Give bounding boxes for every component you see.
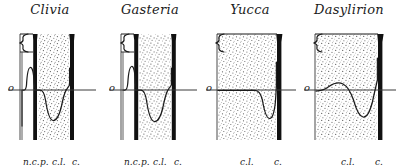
panel-diagram-yucca [200, 28, 300, 140]
panel-dasylirion: Dasylirion o c.l. c. [299, 0, 399, 168]
foot-label-c-yucca: c. [274, 157, 282, 167]
foot-label-p-clivia: p. [40, 157, 49, 167]
stipple-region-clivia [38, 34, 69, 140]
brace-icon-gasteria [121, 34, 130, 52]
brace-icon-clivia [20, 34, 29, 52]
panel-title-gasteria: Gasteria [100, 2, 200, 17]
foot-label-p-gasteria: p. [141, 157, 150, 167]
outer-bar-gasteria [171, 34, 176, 140]
foot-label-cl-yucca: c.l. [240, 157, 254, 167]
outer-bar-clivia [69, 34, 74, 140]
origin-label-dasylirion: o [304, 82, 310, 93]
figure-root: Clivia [0, 0, 399, 168]
panel-title-yucca: Yucca [200, 2, 300, 17]
outer-bar-yucca [276, 34, 282, 140]
foot-label-nc-clivia: n.c. [23, 157, 40, 167]
panel-title-dasylirion: Dasylirion [299, 2, 399, 17]
foot-label-cl-clivia: c.l. [52, 157, 66, 167]
panel-title-clivia: Clivia [0, 2, 100, 17]
foot-label-c-dasylirion: c. [375, 157, 383, 167]
outer-bar-dasylirion [377, 34, 383, 140]
origin-label-gasteria: o [109, 82, 115, 93]
foot-label-c-gasteria: c. [174, 157, 182, 167]
stipple-region-gasteria [139, 34, 171, 140]
panel-diagram-clivia [0, 28, 100, 140]
foot-label-nc-gasteria: n.c. [124, 157, 141, 167]
panel-diagram-dasylirion [299, 28, 399, 140]
panel-yucca: Yucca o c.l. c. [200, 0, 300, 168]
stipple-region-yucca [218, 34, 276, 140]
panel-gasteria: Gasteria o n.c [100, 0, 200, 168]
foot-label-cl-gasteria: c.l. [153, 157, 167, 167]
foot-label-c-clivia: c. [72, 157, 80, 167]
origin-label-clivia: o [8, 82, 14, 93]
origin-label-yucca: o [206, 82, 212, 93]
foot-label-cl-dasylirion: c.l. [341, 157, 355, 167]
panel-clivia: Clivia [0, 0, 100, 168]
